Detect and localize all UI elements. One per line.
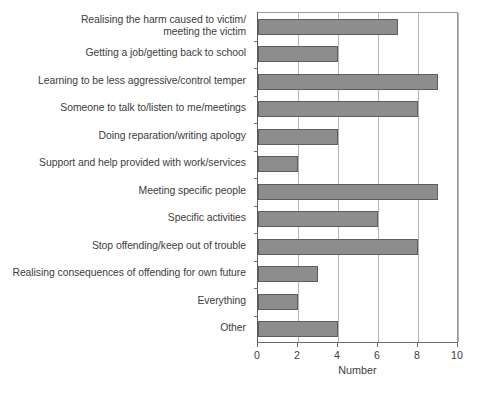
category-label: Other xyxy=(0,322,246,334)
bar-row xyxy=(258,239,418,255)
x-axis-tick-label: 2 xyxy=(282,349,312,361)
x-axis-tick-label: 4 xyxy=(322,349,352,361)
y-axis-tick xyxy=(254,151,258,152)
bar-row xyxy=(258,266,318,282)
bar-chart-figure: Realising the harm caused to victim/ mee… xyxy=(0,0,477,394)
y-axis-tick xyxy=(254,178,258,179)
category-axis-labels: Realising the harm caused to victim/ mee… xyxy=(0,12,252,342)
bar xyxy=(258,211,378,227)
category-label: Learning to be less aggressive/control t… xyxy=(0,75,246,87)
bar-row xyxy=(258,184,438,200)
y-axis-tick xyxy=(254,96,258,97)
bar xyxy=(258,321,338,337)
x-axis-tick xyxy=(257,342,258,347)
category-label: Specific activities xyxy=(0,212,246,224)
bar-row xyxy=(258,46,338,62)
x-axis-tick xyxy=(417,342,418,347)
x-axis-tick-label: 10 xyxy=(442,349,472,361)
bar xyxy=(258,294,298,310)
bar xyxy=(258,239,418,255)
category-label: Meeting specific people xyxy=(0,185,246,197)
bar-row xyxy=(258,101,418,117)
y-axis-tick xyxy=(254,206,258,207)
gridline xyxy=(298,13,299,342)
y-axis-tick xyxy=(254,233,258,234)
x-axis-title: Number xyxy=(257,364,458,376)
x-axis-tick xyxy=(337,342,338,347)
bar xyxy=(258,266,318,282)
category-label: Support and help provided with work/serv… xyxy=(0,157,246,169)
x-axis-tick-label: 0 xyxy=(242,349,272,361)
y-axis-tick xyxy=(254,288,258,289)
bar xyxy=(258,74,438,90)
y-axis-tick xyxy=(254,316,258,317)
x-axis-tick xyxy=(457,342,458,347)
gridline xyxy=(418,13,419,342)
bar-row xyxy=(258,321,338,337)
plot-area xyxy=(257,12,458,342)
y-axis-tick xyxy=(254,123,258,124)
bar-row xyxy=(258,156,298,172)
gridline xyxy=(378,13,379,342)
bar xyxy=(258,46,338,62)
category-label: Realising consequences of offending for … xyxy=(0,267,246,279)
y-axis-tick xyxy=(254,261,258,262)
category-label: Getting a job/getting back to school xyxy=(0,47,246,59)
bar-row xyxy=(258,129,338,145)
category-label: Doing reparation/writing apology xyxy=(0,130,246,142)
category-label: Stop offending/keep out of trouble xyxy=(0,240,246,252)
bar xyxy=(258,156,298,172)
bar-row xyxy=(258,74,438,90)
gridline xyxy=(338,13,339,342)
x-axis-tick-label: 6 xyxy=(362,349,392,361)
bar xyxy=(258,184,438,200)
category-label: Someone to talk to/listen to me/meetings xyxy=(0,102,246,114)
bar-row xyxy=(258,19,398,35)
gridline xyxy=(458,13,459,342)
y-axis-tick xyxy=(254,68,258,69)
bar-row xyxy=(258,211,378,227)
bar xyxy=(258,129,338,145)
x-axis-tick xyxy=(297,342,298,347)
bar xyxy=(258,101,418,117)
bar-row xyxy=(258,294,298,310)
x-axis-tick-label: 8 xyxy=(402,349,432,361)
y-axis-tick xyxy=(254,41,258,42)
category-label: Realising the harm caused to victim/ mee… xyxy=(0,14,246,37)
x-axis-line: 0246810 xyxy=(257,342,458,343)
x-axis-tick xyxy=(377,342,378,347)
category-label: Everything xyxy=(0,295,246,307)
bar xyxy=(258,19,398,35)
